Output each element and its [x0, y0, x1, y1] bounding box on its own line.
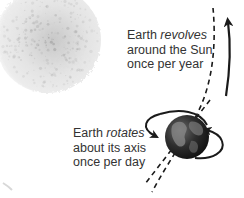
sun-speckle — [52, 43, 55, 46]
sun-speckle — [39, 67, 42, 70]
sun-speckle — [85, 17, 86, 18]
sun-speckle — [31, 2, 34, 5]
sun-speckle — [27, 36, 28, 37]
sun-speckle — [59, 21, 61, 23]
sun-speckle — [72, 81, 74, 83]
sun-speckle — [69, 76, 72, 79]
sun-speckle — [20, 59, 22, 61]
sun-speckle — [3, 34, 6, 37]
sun-speckle — [29, 54, 31, 56]
sun-speckle — [70, 16, 72, 18]
sun-speckle — [60, 64, 61, 65]
sun-speckle — [35, 20, 38, 23]
sun-speckle — [60, 72, 62, 74]
sun-speckle — [69, 36, 70, 37]
sun-speckle — [89, 60, 90, 61]
sun-speckle — [15, 71, 18, 74]
revolution-label-line1: Earth revolves — [127, 28, 213, 43]
sun-speckle — [70, 70, 71, 71]
sun-speckle — [64, 35, 66, 37]
sun-speckle — [58, 17, 61, 20]
sun-speckle — [27, 45, 28, 46]
sun-speckle — [76, 51, 77, 52]
sun-speckle — [42, 81, 45, 84]
sun-speckle — [43, 76, 44, 77]
sun-speckle — [21, 3, 22, 4]
sun-speckle — [73, 41, 74, 42]
revolution-label-emphasis: revolves — [160, 28, 207, 42]
sun-speckle — [66, 27, 69, 30]
sun-speckle — [31, 10, 34, 13]
sun-speckle — [42, 37, 44, 39]
sun-speckle — [18, 45, 20, 47]
sun-speckle — [47, 49, 50, 52]
sun-speckle — [51, 39, 53, 41]
sun-speckle — [40, 1, 41, 2]
sun-speckle — [65, 57, 68, 60]
sun-speckle — [43, 60, 44, 61]
sun-speckle — [83, 61, 86, 64]
sun-speckle — [45, 40, 46, 41]
sun-speckle — [76, 25, 79, 28]
sun-speckle — [7, 38, 9, 40]
sun-speckle — [37, 15, 40, 18]
sun-speckle — [70, 12, 73, 15]
sun-speckle — [14, 45, 17, 48]
sun-speckle — [68, 2, 70, 4]
sun-speckle — [31, 38, 34, 41]
sun-speckle — [12, 56, 15, 59]
sun-speckle — [16, 52, 17, 53]
sun-speckle — [64, 4, 66, 6]
sun-speckle — [89, 19, 92, 22]
sun-speckle — [71, 68, 73, 70]
sun-speckle — [63, 0, 66, 3]
sun-speckle — [86, 31, 88, 33]
sun-speckle — [38, 45, 39, 46]
sun-speckle — [50, 81, 51, 82]
sun-speckle — [3, 25, 5, 27]
sun-speckle — [50, 73, 51, 74]
sun-speckle — [61, 55, 63, 57]
sun-speckle — [94, 30, 95, 31]
sun-speckle — [89, 50, 92, 53]
sun-speckle — [77, 14, 78, 15]
sun-speckle — [52, 86, 53, 87]
sun-speckle — [16, 16, 18, 18]
rotation-label-prefix: Earth — [73, 126, 106, 140]
sun-speckle — [85, 9, 87, 11]
sun-speckle — [26, 72, 28, 74]
sun-speckle — [72, 60, 75, 63]
sun-speckle — [28, 16, 31, 19]
sun-speckle — [30, 43, 32, 45]
sun-speckle — [79, 8, 81, 10]
sun-speckle — [63, 47, 64, 48]
sun-speckle — [43, 86, 45, 88]
sun-speckle — [68, 7, 69, 8]
sun-speckle — [22, 50, 24, 52]
sun-speckle — [33, 70, 34, 71]
sun-speckle — [36, 27, 37, 28]
sun-speckle — [47, 36, 48, 37]
sun-speckle — [33, 82, 35, 84]
sun-speckle — [54, 48, 55, 49]
sun-speckle — [82, 20, 85, 23]
rotation-arrow-left — [146, 114, 160, 136]
sun-speckle — [52, 72, 55, 75]
sun-speckle — [53, 0, 55, 2]
sun-speckle — [7, 53, 9, 55]
sun-speckle — [11, 19, 14, 22]
sun-speckle — [72, 47, 74, 49]
rotation-label-line3: once per day — [73, 155, 146, 170]
rotation-label-emphasis: rotates — [106, 126, 144, 140]
sun-speckle — [75, 35, 76, 36]
sun-speckle — [9, 45, 11, 47]
sun-speckle — [34, 28, 37, 31]
sun-speckle — [23, 23, 25, 25]
sun-speckle — [47, 20, 48, 21]
sun-speckle — [55, 33, 56, 34]
sun-speckle — [38, 29, 39, 30]
sun-speckle — [56, 85, 58, 87]
sun-speckle — [28, 71, 29, 72]
sun-speckle — [6, 45, 8, 47]
sun-speckle — [45, 13, 46, 14]
